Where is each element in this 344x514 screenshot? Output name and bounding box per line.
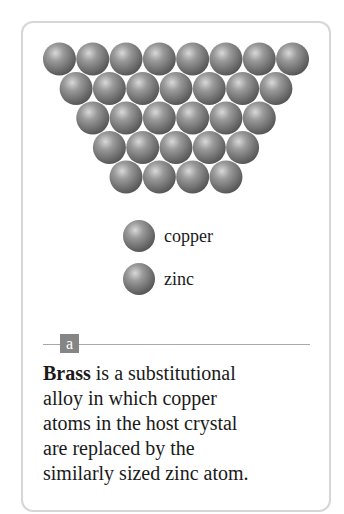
atom [76,102,109,135]
atom [259,72,292,105]
legend-label-copper: copper [164,226,213,247]
atom [126,72,159,105]
legend-label-zinc: zinc [164,269,194,290]
atom [143,161,176,194]
atom [209,161,242,194]
atom [160,131,193,164]
atom [143,43,176,76]
atom [76,43,109,76]
atom [110,102,143,135]
caption: Brass is a substitutionalalloy in which … [43,361,323,486]
atom [60,72,93,105]
separator-line [43,344,310,345]
atom [176,43,209,76]
zinc-atom-icon [122,262,156,296]
copper-atom-icon [122,219,156,253]
atom [93,131,126,164]
atom [43,43,76,76]
atom [193,131,226,164]
atom [176,102,209,135]
atom [93,72,126,105]
atom [110,161,143,194]
panel-label-badge: a [60,334,79,353]
atom [226,72,259,105]
atom-lattice [0,0,344,200]
atom [176,161,209,194]
atom [193,72,226,105]
atom [209,102,242,135]
atom [226,131,259,164]
atom [110,43,143,76]
atom [276,43,309,76]
atom [243,102,276,135]
caption-term: Brass [43,362,91,384]
atom [209,43,242,76]
atom [243,43,276,76]
legend-zinc: zinc [122,262,194,296]
atom [160,72,193,105]
legend-copper: copper [122,219,213,253]
atom [143,102,176,135]
atom [126,131,159,164]
